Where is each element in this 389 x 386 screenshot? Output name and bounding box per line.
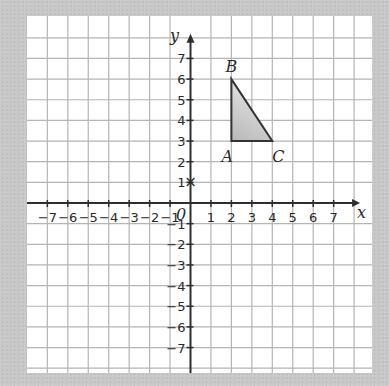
x-axis-label: x <box>357 203 366 222</box>
x-tick-label: 7 <box>330 210 338 225</box>
x-tick-label: −4 <box>99 210 118 225</box>
y-tick-label: 3 <box>177 134 185 149</box>
y-tick-label: −5 <box>166 299 185 314</box>
x-tick-label: 5 <box>289 210 297 225</box>
vertex-label-c: C <box>272 147 284 166</box>
y-tick-label: 5 <box>177 93 185 108</box>
cross-marker-icon: × <box>184 173 197 191</box>
x-tick-label: −5 <box>79 210 98 225</box>
y-tick-label: 6 <box>177 72 185 87</box>
y-tick-label: −4 <box>166 279 185 294</box>
y-tick-label: −3 <box>166 258 185 273</box>
vertex-label-a: A <box>220 147 234 166</box>
x-tick-label: −3 <box>120 210 139 225</box>
y-tick-label: −6 <box>166 320 185 335</box>
y-tick-label: 7 <box>177 51 185 66</box>
x-tick-label: 2 <box>227 210 235 225</box>
origin-label: 0 <box>176 205 186 224</box>
x-tick-label: 6 <box>309 210 317 225</box>
x-tick-label: 3 <box>248 210 256 225</box>
vertex-label-b: B <box>225 57 238 76</box>
y-tick-label: 2 <box>177 155 185 170</box>
y-axis-label: y <box>169 26 180 45</box>
y-tick-label: 4 <box>177 113 185 128</box>
coordinate-grid: −7−6−5−4−3−2−112345677654321−1−2−3−4−5−6… <box>0 0 389 386</box>
x-tick-label: 1 <box>207 210 215 225</box>
y-tick-label: −2 <box>166 237 185 252</box>
x-tick-label: −6 <box>58 210 77 225</box>
x-tick-label: −2 <box>140 210 159 225</box>
x-tick-label: −7 <box>38 210 57 225</box>
grid-paper <box>27 16 372 373</box>
x-tick-label: 4 <box>268 210 276 225</box>
y-tick-label: −7 <box>166 341 185 356</box>
